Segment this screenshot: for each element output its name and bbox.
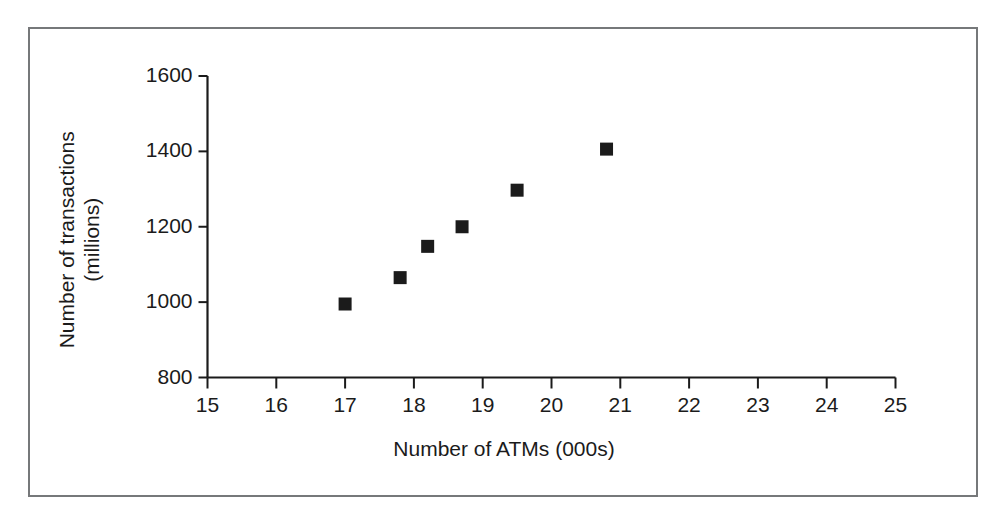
y-axis-title-line1: Number of transactions — [55, 131, 78, 348]
chart-figure: 8001000120014001600151617181920212223242… — [0, 0, 1008, 521]
data-point-5 — [600, 143, 613, 156]
x-tick-label-15: 15 — [178, 393, 238, 417]
y-tick-label-1400: 1400 — [113, 138, 193, 162]
x-tick-label-16: 16 — [246, 393, 306, 417]
x-tick-label-22: 22 — [659, 393, 719, 417]
y-tick-label-1200: 1200 — [113, 214, 193, 238]
axes-lines — [208, 76, 896, 378]
y-tick-label-800: 800 — [113, 365, 193, 389]
y-axis-title-line2: (millions) — [80, 198, 103, 282]
y-tick-label-1000: 1000 — [113, 289, 193, 313]
y-axis-title: Number of transactions(millions) — [55, 100, 105, 380]
data-point-markers — [339, 143, 613, 311]
x-tick-label-19: 19 — [453, 393, 513, 417]
data-point-2 — [421, 240, 434, 253]
y-tick-label-1600: 1600 — [113, 63, 193, 87]
x-tick-label-25: 25 — [866, 393, 926, 417]
data-point-0 — [339, 298, 352, 311]
x-tick-label-24: 24 — [797, 393, 857, 417]
data-point-1 — [394, 271, 407, 284]
data-point-4 — [511, 184, 524, 197]
x-tick-label-23: 23 — [728, 393, 788, 417]
x-axis-title: Number of ATMs (000s) — [0, 437, 1008, 461]
axis-ticks — [199, 76, 896, 389]
x-tick-label-20: 20 — [522, 393, 582, 417]
x-tick-label-18: 18 — [384, 393, 444, 417]
data-point-3 — [456, 220, 469, 233]
x-tick-label-17: 17 — [315, 393, 375, 417]
x-tick-label-21: 21 — [590, 393, 650, 417]
